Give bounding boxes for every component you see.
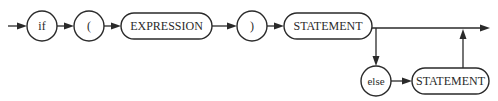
terminal-rparen: ) [237, 11, 267, 41]
entry-arrow [8, 23, 27, 30]
nonterminal-statement-label: STATEMENT [293, 19, 363, 33]
terminal-if-label: if [38, 19, 45, 33]
terminal-lparen-label: ( [87, 19, 91, 33]
nonterminal-else-statement: STATEMENT [412, 68, 489, 94]
terminal-else-label: else [367, 75, 384, 87]
terminal-if: if [27, 11, 57, 41]
nonterminal-statement: STATEMENT [284, 13, 372, 39]
arrow-rparen-to-statement [267, 23, 284, 30]
arrow-else-to-statement [391, 78, 412, 85]
exit-arrow [372, 25, 490, 32]
arrow-if-to-lparen [57, 23, 74, 30]
nonterminal-expression: EXPRESSION [121, 13, 212, 39]
nonterminal-else-statement-label: STATEMENT [416, 74, 486, 88]
nonterminal-expression-label: EXPRESSION [130, 19, 203, 33]
if-statement-syntax-diagram: if ( EXPRESSION ) STATEMENT [0, 0, 498, 101]
terminal-rparen-label: ) [250, 19, 254, 33]
arrow-statement-to-else [373, 28, 380, 66]
arrow-lparen-to-expression [104, 23, 121, 30]
terminal-lparen: ( [74, 11, 104, 41]
terminal-else: else [361, 66, 391, 96]
arrow-expression-to-rparen [212, 23, 237, 30]
arrow-else-statement-to-exit [460, 29, 467, 68]
